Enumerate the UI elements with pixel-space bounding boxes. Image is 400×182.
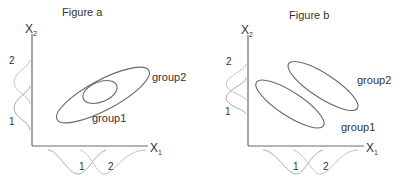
figure-a-y-axis-label: X2: [25, 22, 37, 37]
figure-b: Figure b X2 X1 2 1 1 2 group2 group1: [225, 9, 391, 174]
figure-a-y-marginal-1: [14, 86, 30, 130]
figure-b-y-marginal-label-2: 2: [226, 56, 232, 67]
figure-b-title: Figure b: [289, 9, 329, 21]
figure-b-x-axis-label: X1: [366, 141, 378, 156]
figure-b-y-marginal-label-1: 1: [225, 106, 231, 117]
figure-b-group1-ellipse: [250, 72, 330, 136]
figure-a-title: Figure a: [62, 6, 103, 18]
figure-b-group1-label: group1: [341, 121, 375, 133]
figure-b-group2-ellipse: [282, 54, 364, 119]
diagram-stage: Figure a X2 X1 2 1 1 2 group2 group1: [0, 0, 400, 182]
figure-b-y-axis-label: X2: [241, 23, 253, 38]
figure-b-group2-label: group2: [357, 74, 391, 86]
figure-b-x-marginal-label-1: 1: [293, 161, 299, 172]
figure-a-x-marginal-label-2: 2: [108, 161, 114, 172]
figure-a-group1-label: group1: [92, 112, 126, 124]
figure-a-y-marginal-2: [14, 60, 30, 104]
figure-a: Figure a X2 X1 2 1 1 2 group2 group1: [9, 6, 186, 174]
figure-a-y-marginal-label-1: 1: [9, 116, 15, 127]
diagram-svg: Figure a X2 X1 2 1 1 2 group2 group1: [0, 0, 400, 182]
figure-a-x-marginal-label-1: 1: [79, 161, 85, 172]
figure-a-group1-ellipse: [80, 76, 121, 108]
figure-a-x-marginal-1: [48, 150, 106, 174]
figure-a-y-marginal-label-2: 2: [9, 55, 15, 66]
figure-a-group2-label: group2: [152, 71, 186, 83]
figure-a-x-axis-label: X1: [150, 141, 162, 156]
figure-b-x-marginal-label-2: 2: [323, 161, 329, 172]
